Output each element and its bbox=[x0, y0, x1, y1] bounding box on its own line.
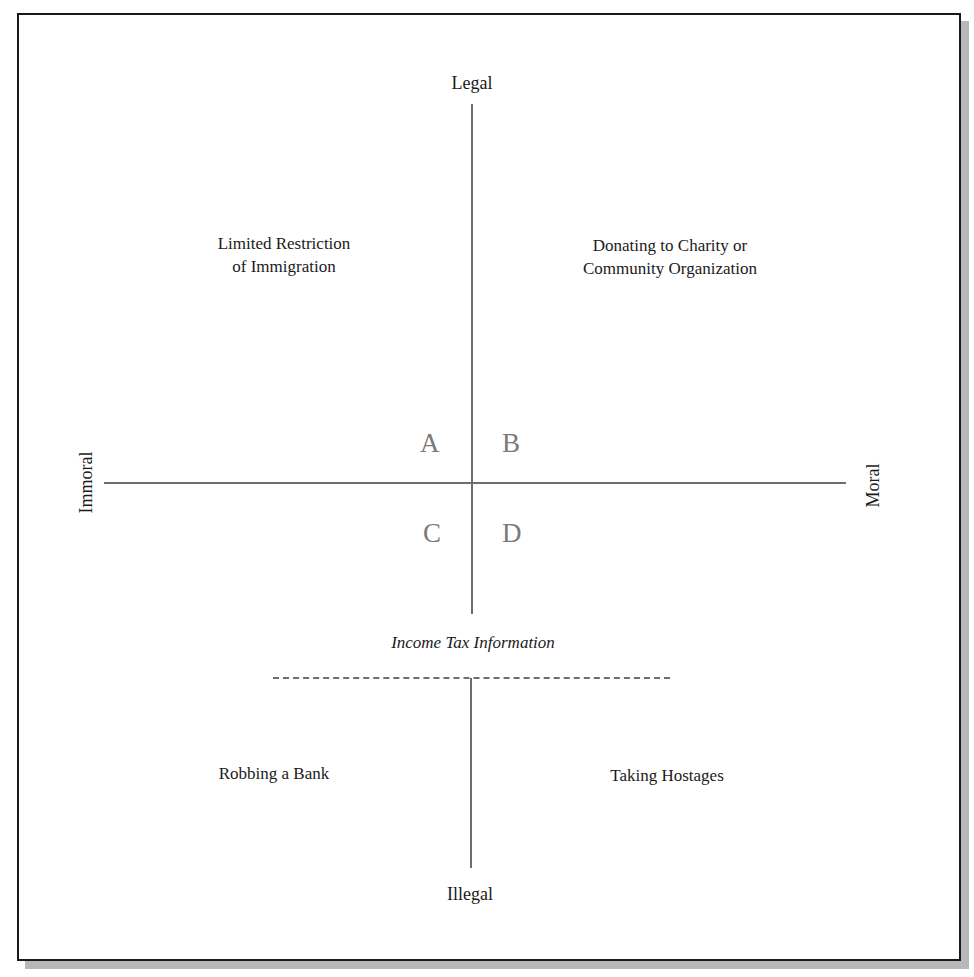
axis-label-illegal: Illegal bbox=[435, 883, 505, 906]
example-top-right-line2: Community Organization bbox=[555, 257, 785, 280]
example-taking-hostages: Taking Hostages bbox=[597, 764, 737, 787]
moral-axis-line bbox=[104, 482, 846, 484]
example-top-left-line1: Limited Restriction bbox=[184, 232, 384, 255]
example-top-right-line1: Donating to Charity or bbox=[555, 234, 785, 257]
example-donating-to-charity: Donating to Charity or Community Organiz… bbox=[555, 234, 785, 280]
quadrant-letter-c: C bbox=[423, 518, 441, 548]
quadrant-letter-b: B bbox=[502, 428, 520, 458]
example-income-tax-information: Income Tax Information bbox=[368, 631, 578, 654]
quadrant-letter-a: A bbox=[420, 428, 440, 458]
axis-label-immoral: Immoral bbox=[76, 443, 97, 523]
legal-axis-line bbox=[471, 104, 473, 614]
example-top-left-line2: of Immigration bbox=[184, 255, 384, 278]
diagram-frame bbox=[17, 13, 961, 961]
axis-label-legal: Legal bbox=[442, 72, 502, 95]
illegal-axis-line bbox=[470, 678, 472, 868]
example-robbing-a-bank: Robbing a Bank bbox=[204, 762, 344, 785]
quadrant-letter-d: D bbox=[502, 518, 522, 548]
axis-label-moral: Moral bbox=[863, 451, 884, 521]
example-limited-restriction-of-immigration: Limited Restriction of Immigration bbox=[184, 232, 384, 278]
